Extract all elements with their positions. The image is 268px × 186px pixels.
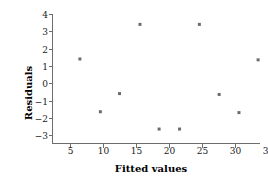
x-tick-label: 10: [98, 147, 109, 156]
y-tick-label: 4: [42, 10, 48, 19]
data-points: [78, 23, 259, 131]
data-point: [78, 57, 81, 60]
data-point: [237, 111, 240, 114]
y-tick-label: −1: [35, 97, 48, 106]
x-tick-label: 5: [68, 147, 74, 156]
data-point: [198, 23, 201, 26]
y-tick-label: 2: [42, 45, 48, 54]
y-tick-label: −3: [35, 131, 48, 140]
y-tick-label: 1: [42, 62, 48, 71]
plot-canvas: [0, 0, 268, 186]
data-point: [218, 93, 221, 96]
y-tick-label: −2: [35, 114, 48, 123]
x-tick-label: 15: [131, 147, 142, 156]
x-tick-label: 35: [263, 147, 268, 156]
axes: [53, 14, 260, 144]
y-tick-label: 3: [42, 27, 48, 36]
data-point: [118, 92, 121, 95]
data-point: [178, 128, 181, 131]
data-point: [99, 110, 102, 113]
residual-scatter-plot: 5101520253035 −3−2−101234 Fitted values …: [0, 0, 268, 186]
data-point: [257, 58, 260, 61]
y-axis-title: Residuals: [24, 66, 34, 120]
x-tick-label: 25: [197, 147, 208, 156]
x-tick-label: 30: [230, 147, 241, 156]
x-tick-label: 20: [164, 147, 175, 156]
x-axis-title: Fitted values: [0, 164, 268, 174]
y-tick-label: 0: [42, 79, 48, 88]
y-axis-ticks: [49, 15, 53, 136]
data-point: [138, 23, 141, 26]
data-point: [158, 128, 161, 131]
